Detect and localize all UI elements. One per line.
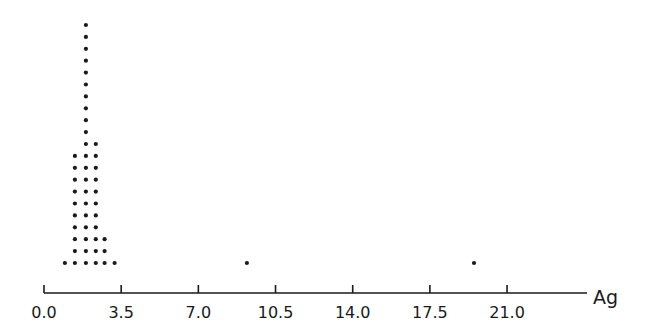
data-point: [94, 154, 98, 158]
data-point: [94, 237, 98, 241]
data-point: [94, 213, 98, 217]
data-point: [84, 249, 88, 253]
data-point: [73, 178, 77, 182]
data-point: [84, 23, 88, 27]
data-point: [73, 237, 77, 241]
data-point: [84, 237, 88, 241]
data-point: [103, 249, 107, 253]
data-point: [113, 261, 117, 265]
data-point: [73, 166, 77, 170]
data-point: [94, 142, 98, 146]
data-point: [94, 166, 98, 170]
dot-plot: 0.03.57.010.514.017.521.0 Ag: [0, 0, 646, 336]
data-point: [73, 201, 77, 205]
data-point: [84, 190, 88, 194]
x-tick-label: 7.0: [186, 303, 211, 322]
data-point: [94, 225, 98, 229]
data-point: [94, 178, 98, 182]
data-point: [84, 47, 88, 51]
data-point: [63, 261, 67, 265]
data-point: [84, 178, 88, 182]
data-point: [73, 225, 77, 229]
x-tick-label: 3.5: [108, 303, 133, 322]
data-point: [103, 237, 107, 241]
x-axis-tick-labels: 0.03.57.010.514.017.521.0: [31, 303, 525, 322]
data-point: [84, 261, 88, 265]
data-point: [84, 94, 88, 98]
data-point: [84, 35, 88, 39]
data-points: [63, 23, 476, 265]
data-point: [73, 154, 77, 158]
x-tick-label: 17.5: [412, 303, 448, 322]
data-point: [84, 154, 88, 158]
data-point: [84, 142, 88, 146]
data-point: [73, 261, 77, 265]
data-point: [94, 190, 98, 194]
data-point: [472, 261, 476, 265]
data-point: [84, 201, 88, 205]
data-point: [84, 59, 88, 63]
x-tick-label: 10.5: [258, 303, 294, 322]
data-point: [84, 130, 88, 134]
data-point: [84, 225, 88, 229]
x-tick-label: 21.0: [489, 303, 525, 322]
data-point: [84, 166, 88, 170]
data-point: [94, 201, 98, 205]
data-point: [103, 261, 107, 265]
data-point: [73, 213, 77, 217]
data-point: [84, 213, 88, 217]
x-axis-label: Ag: [593, 286, 618, 308]
data-point: [84, 71, 88, 75]
data-point: [84, 118, 88, 122]
data-point: [84, 82, 88, 86]
data-point: [73, 249, 77, 253]
x-tick-label: 14.0: [335, 303, 371, 322]
x-tick-label: 0.0: [31, 303, 56, 322]
data-point: [73, 190, 77, 194]
x-axis-ticks: [44, 285, 507, 293]
data-point: [94, 249, 98, 253]
data-point: [84, 106, 88, 110]
data-point: [245, 261, 249, 265]
data-point: [94, 261, 98, 265]
